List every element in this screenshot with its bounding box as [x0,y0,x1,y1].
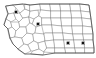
marker-3[interactable] [66,41,69,44]
marker-2[interactable] [36,22,39,25]
map-figure [0,0,96,58]
montana-county-map[interactable] [0,0,96,58]
marker-4[interactable] [81,41,84,44]
marker-1[interactable] [14,10,17,13]
